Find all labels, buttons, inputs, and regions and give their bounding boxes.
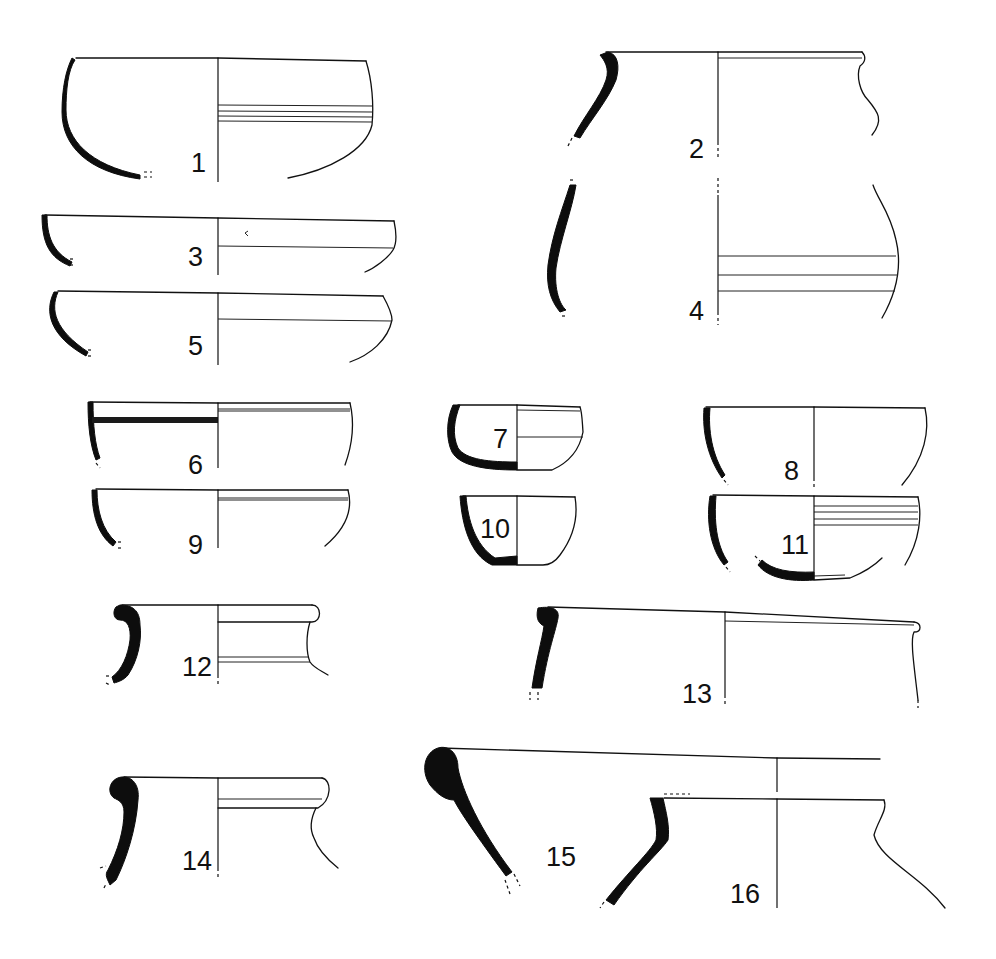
vessel-2: 2 <box>568 52 879 164</box>
vessel-number-5: 5 <box>188 331 203 361</box>
vessel-15: 15 <box>425 747 880 894</box>
pottery-plate: 1 2 4 3 <box>0 0 996 959</box>
vessel-7: 7 <box>448 405 583 470</box>
vessel-number-1: 1 <box>191 148 206 178</box>
vessel-number-9: 9 <box>188 530 203 560</box>
vessel-12: 12 <box>106 605 328 685</box>
vessel-8: 8 <box>704 407 927 490</box>
vessel-number-12: 12 <box>182 652 212 682</box>
vessel-6: 6 <box>88 402 353 480</box>
vessel-13: 13 <box>530 607 920 709</box>
vessel-number-2: 2 <box>689 134 704 164</box>
vessel-number-14: 14 <box>182 846 212 876</box>
vessel-number-16: 16 <box>730 879 760 909</box>
vessel-number-4: 4 <box>689 296 704 326</box>
vessel-11: 11 <box>709 495 920 580</box>
vessel-10: 10 <box>460 496 576 565</box>
vessel-number-7: 7 <box>493 424 508 454</box>
vessel-9: 9 <box>92 489 350 560</box>
vessel-number-10: 10 <box>480 514 510 544</box>
vessel-1: 1 <box>62 58 373 182</box>
vessel-5: 5 <box>50 291 392 365</box>
vessel-number-11: 11 <box>781 530 809 560</box>
vessel-14: 14 <box>100 777 338 888</box>
vessel-number-8: 8 <box>784 456 799 486</box>
vessel-16: 16 <box>600 794 945 909</box>
vessel-number-15: 15 <box>546 842 576 872</box>
vessel-number-6: 6 <box>188 450 203 480</box>
vessel-4: 4 <box>548 178 899 326</box>
vessel-3: 3 <box>42 215 396 275</box>
vessel-number-13: 13 <box>682 679 712 709</box>
vessel-number-3: 3 <box>188 242 203 272</box>
